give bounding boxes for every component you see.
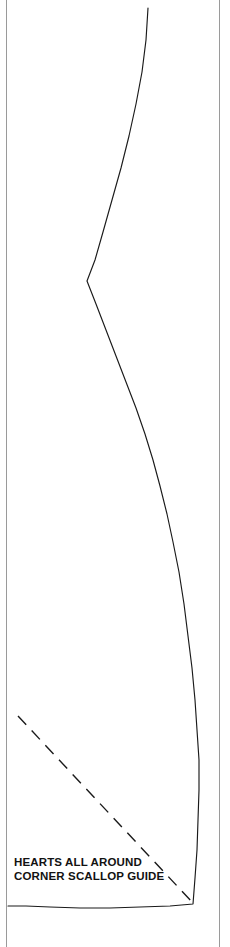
guide-label-line-2: CORNER SCALLOP GUIDE — [14, 869, 164, 883]
guide-label: HEARTS ALL AROUND CORNER SCALLOP GUIDE — [14, 855, 164, 883]
guide-label-line-1: HEARTS ALL AROUND — [14, 855, 164, 869]
pattern-sheet-page: HEARTS ALL AROUND CORNER SCALLOP GUIDE — [0, 0, 230, 947]
scallop-guide-drawing — [0, 0, 230, 947]
page-background — [0, 0, 230, 947]
